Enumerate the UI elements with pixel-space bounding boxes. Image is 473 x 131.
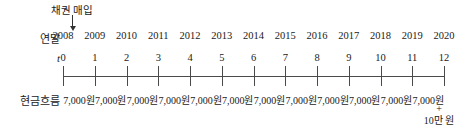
timeline-tick — [381, 66, 382, 86]
cash-flow-amount: 7,000원 — [127, 92, 159, 107]
cash-flow-amount: 7,000원 — [285, 92, 317, 107]
t-index-label: 11 — [407, 52, 417, 63]
t-index-label: 6 — [251, 52, 256, 63]
cash-flow-amount: 7,000원 — [95, 92, 127, 107]
cash-flow-amount: 7,000원 — [317, 92, 349, 107]
year-label: 2016 — [307, 30, 328, 41]
plus-sign: + — [424, 103, 455, 115]
year-label: 2018 — [370, 30, 391, 41]
year-label: 2020 — [434, 30, 455, 41]
t-index-label: 10 — [375, 52, 386, 63]
timeline-tick — [222, 66, 223, 86]
cash-flow-amount: 7,000원 — [158, 92, 190, 107]
year-label: 2010 — [116, 30, 137, 41]
year-label: 2015 — [275, 30, 296, 41]
timeline-tick — [127, 66, 128, 86]
t-index-label: 9 — [346, 52, 351, 63]
t-index-label: 7 — [283, 52, 288, 63]
timeline-tick — [158, 66, 159, 86]
row-label-cash-flow: 현금흐름 — [2, 92, 60, 108]
down-arrow-icon — [72, 15, 73, 27]
row-label-t: t — [6, 52, 60, 64]
timeline-tick — [63, 66, 64, 86]
year-label: 2011 — [148, 30, 169, 41]
timeline-tick — [190, 66, 191, 86]
timeline-tick — [254, 66, 255, 86]
cash-flow-amount: 7,000원 — [381, 92, 413, 107]
year-label: 2008 — [53, 30, 74, 41]
t-index-label: 8 — [314, 52, 319, 63]
timeline-tick — [95, 66, 96, 86]
year-label: 2012 — [180, 30, 201, 41]
timeline-tick — [285, 66, 286, 86]
t-index-label: 1 — [92, 52, 97, 63]
cash-flow-amount: 7,000원 — [190, 92, 222, 107]
cash-flow-amount: 7,000원 — [349, 92, 381, 107]
year-label: 2017 — [338, 30, 359, 41]
t-index-label: 0 — [60, 52, 65, 63]
t-index-label: 2 — [124, 52, 129, 63]
t-index-label: 4 — [187, 52, 192, 63]
timeline-tick — [444, 66, 445, 86]
timeline-tick — [349, 66, 350, 86]
timeline-tick — [317, 66, 318, 86]
principal-amount: 10만 원 — [424, 115, 455, 127]
year-label: 2013 — [211, 30, 232, 41]
t-index-label: 12 — [439, 52, 450, 63]
cash-flow-amount: 7,000원 — [63, 92, 95, 107]
cash-flow-timeline-diagram: 채권 매입 연말 t 현금흐름 20080200917,000원201027,0… — [0, 0, 473, 131]
timeline-tick — [412, 66, 413, 86]
t-index-label: 5 — [219, 52, 224, 63]
year-label: 2014 — [243, 30, 264, 41]
t-index-label: 3 — [156, 52, 161, 63]
year-label: 2009 — [84, 30, 105, 41]
cash-flow-amount: 7,000원 — [222, 92, 254, 107]
year-label: 2019 — [402, 30, 423, 41]
cash-flow-principal: +10만 원 — [424, 103, 455, 127]
cash-flow-amount: 7,000원 — [254, 92, 286, 107]
